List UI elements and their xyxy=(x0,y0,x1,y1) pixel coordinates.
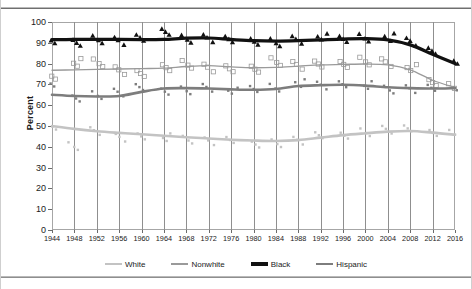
page-rule-bottom-2 xyxy=(0,277,472,278)
legend-item-white[interactable]: White xyxy=(105,260,145,269)
data-point xyxy=(369,135,371,137)
data-point xyxy=(210,40,215,45)
x-tick-1988 xyxy=(298,230,299,233)
data-point xyxy=(391,31,396,36)
page-rule-top-2 xyxy=(0,8,472,9)
chart-legend: WhiteNonwhiteBlackHispanic xyxy=(0,256,472,272)
data-point xyxy=(316,81,318,83)
data-point xyxy=(338,80,340,82)
data-point xyxy=(436,135,438,137)
x-axis-label-2016: 2016 xyxy=(440,234,470,243)
data-point xyxy=(180,58,184,62)
data-point xyxy=(340,132,342,134)
x-tick-1968 xyxy=(186,230,187,233)
data-point xyxy=(159,26,164,31)
data-point xyxy=(211,90,213,92)
data-point xyxy=(448,129,450,131)
chart-title-clipped: Voter Turnout by Race and Ethnicity xyxy=(132,0,342,3)
y-axis-label-40: 40 xyxy=(18,143,46,152)
data-point xyxy=(407,127,409,129)
data-point xyxy=(403,124,405,126)
data-point xyxy=(231,92,233,94)
data-point xyxy=(91,57,95,61)
legend-item-black[interactable]: Black xyxy=(251,260,291,269)
data-point xyxy=(124,140,126,142)
x-tick-1996 xyxy=(343,230,344,233)
legend-item-hispanic[interactable]: Hispanic xyxy=(316,260,367,269)
data-point xyxy=(292,136,294,138)
data-point xyxy=(213,144,215,146)
data-point xyxy=(90,33,95,38)
data-point xyxy=(370,80,372,82)
data-point xyxy=(75,97,77,99)
data-point xyxy=(381,125,383,127)
data-point xyxy=(187,139,189,141)
x-tick-1960 xyxy=(142,230,143,233)
trend-line-hispanic xyxy=(52,85,455,97)
data-point xyxy=(100,98,102,100)
data-point xyxy=(78,100,80,102)
x-tick-2012 xyxy=(433,230,434,233)
data-point xyxy=(256,91,258,93)
data-point xyxy=(91,90,93,92)
data-point xyxy=(179,32,184,37)
x-tick-1972 xyxy=(209,230,210,233)
series-markers-nonwhite xyxy=(50,55,457,90)
x-tick-1956 xyxy=(119,230,120,233)
x-tick-1980 xyxy=(254,230,255,233)
x-tick-1964 xyxy=(164,230,165,233)
data-point xyxy=(254,143,256,145)
data-point xyxy=(324,31,329,36)
data-point xyxy=(389,89,391,91)
data-point xyxy=(345,86,347,88)
data-point xyxy=(164,90,166,92)
series-layer xyxy=(52,22,455,230)
data-point xyxy=(79,57,83,61)
data-point xyxy=(294,81,296,83)
data-point xyxy=(201,32,206,37)
data-point xyxy=(302,143,304,145)
legend-label: Nonwhite xyxy=(191,260,224,269)
trend-line-black xyxy=(52,38,455,64)
data-point xyxy=(89,126,91,128)
legend-label: White xyxy=(125,260,145,269)
data-point xyxy=(116,91,118,93)
data-point xyxy=(225,136,227,138)
figure-container: Voter Turnout by Race and Ethnicity Perc… xyxy=(0,0,472,289)
legend-label: Hispanic xyxy=(336,260,367,269)
y-axis-label-20: 20 xyxy=(18,184,46,193)
data-point xyxy=(318,134,320,136)
y-axis-label-60: 60 xyxy=(18,101,46,110)
legend-label: Black xyxy=(271,260,291,269)
x-tick-1976 xyxy=(231,230,232,233)
legend-swatch-black-icon xyxy=(251,262,268,265)
y-axis-label-80: 80 xyxy=(18,60,46,69)
data-point xyxy=(405,84,407,86)
data-point xyxy=(456,89,458,91)
data-point xyxy=(118,136,120,138)
data-point xyxy=(347,137,349,139)
data-point xyxy=(428,129,430,131)
data-point xyxy=(189,93,191,95)
x-tick-1944 xyxy=(52,230,53,233)
plot-area: 0102030405060708090100 19441948195219561… xyxy=(52,22,455,230)
legend-item-nonwhite[interactable]: Nonwhite xyxy=(171,260,224,269)
y-axis-label-90: 90 xyxy=(18,39,46,48)
y-axis-label-70: 70 xyxy=(18,80,46,89)
series-markers-white xyxy=(51,124,456,151)
data-point xyxy=(276,143,278,145)
data-point xyxy=(357,31,362,36)
data-point xyxy=(278,90,280,92)
data-point xyxy=(414,63,418,67)
data-point xyxy=(385,128,387,130)
x-tick-1984 xyxy=(276,230,277,233)
data-point xyxy=(314,131,316,133)
data-point xyxy=(77,149,79,151)
data-point xyxy=(169,132,171,134)
data-point xyxy=(382,34,387,39)
data-point xyxy=(55,128,57,130)
series-markers-black xyxy=(49,26,460,66)
data-point xyxy=(53,85,55,87)
data-point xyxy=(73,146,75,148)
data-point xyxy=(249,85,251,87)
